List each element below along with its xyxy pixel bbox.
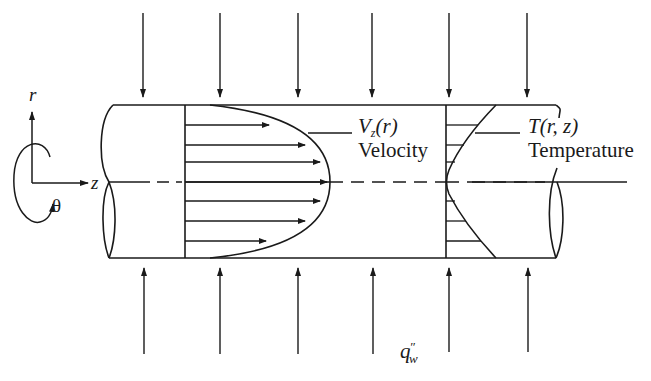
velocity-symbol: Vz(r): [358, 116, 398, 139]
z-axis-label: z: [91, 173, 98, 192]
velocity-label: Velocity: [358, 140, 428, 161]
r-axis-label: r: [29, 85, 36, 104]
heat-flux-arrows-bottom: [144, 268, 528, 354]
heat-flux-label: q″w: [400, 340, 418, 365]
temperature-label: Temperature: [528, 140, 634, 161]
coordinate-axes: [14, 112, 88, 222]
temperature-symbol: T(r, z): [528, 116, 578, 137]
velocity-arrows: [185, 125, 327, 241]
heat-flux-arrows-top: [143, 13, 527, 97]
theta-label: θ: [52, 196, 61, 215]
temperature-hatch: [446, 125, 481, 241]
